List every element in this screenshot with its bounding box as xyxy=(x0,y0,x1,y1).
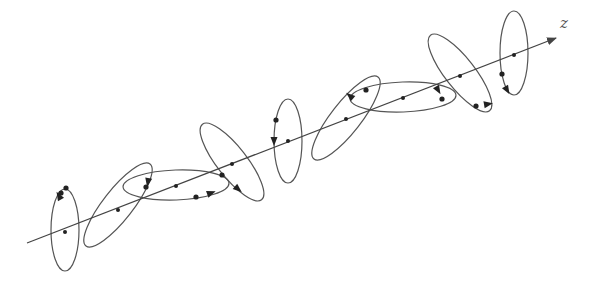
polarization-ellipse-2 xyxy=(74,155,162,255)
field-point-dot xyxy=(473,103,478,108)
axis-center-dot xyxy=(286,139,290,143)
polarization-diagram: z xyxy=(0,0,594,289)
polarization-ellipse-8 xyxy=(419,26,502,120)
field-point-dot xyxy=(219,172,224,177)
diagram-canvas xyxy=(0,0,594,289)
axis-center-dot xyxy=(174,184,178,188)
rotation-arrow-icon xyxy=(271,137,278,146)
field-point-dot xyxy=(439,96,444,101)
field-point-dot xyxy=(273,117,278,122)
rotation-arrow-icon xyxy=(433,85,444,96)
axis-center-dot xyxy=(230,162,234,166)
axis-center-dot xyxy=(458,74,462,78)
field-point-dot xyxy=(363,87,368,92)
z-axis-label: z xyxy=(560,14,568,32)
axis-center-dot xyxy=(116,208,120,212)
axis-center-dot xyxy=(401,96,405,100)
axis-center-dot xyxy=(344,117,348,121)
field-point-dot xyxy=(63,185,68,190)
field-point-dot xyxy=(193,194,198,199)
axis-center-dot xyxy=(512,53,516,57)
axis-center-dot xyxy=(63,230,67,234)
field-vector-markers xyxy=(53,71,512,201)
field-point-dot xyxy=(499,71,504,76)
z-axis-line xyxy=(27,38,556,243)
